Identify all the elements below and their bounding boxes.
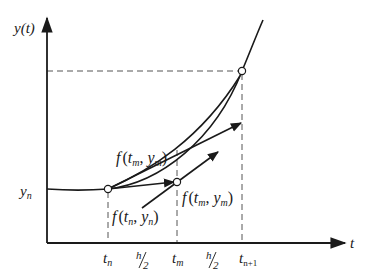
slope-lines [108,76,241,208]
svg-text:h: h [136,249,142,261]
annotation-slope-initial: f(tn, yn) [112,208,159,227]
y-tick-yn: yn [18,183,32,201]
point-tn1-yn1 [238,67,245,74]
x-axis-label: t [350,235,355,251]
arrow-initial-slope [108,182,174,189]
x-tick-tn: tn [103,250,112,268]
x-tick-tn1: tn+1 [239,250,257,268]
svg-text:2: 2 [143,259,149,271]
y-axis-label: y(t) [12,20,35,37]
x-tick-tm: tm [172,250,183,268]
annotation-slope-upper: f(tm, ym) [116,149,167,168]
svg-text:2: 2 [213,259,219,271]
point-tm-ym [173,178,180,185]
point-tn-yn [104,185,111,192]
svg-text:h: h [206,249,212,261]
x-tick-half-step-2: h 2 [206,249,219,271]
annotation-slope-mid: f(tm, ym) [182,189,233,208]
midpoint-method-diagram: y(t) t yn tn h 2 tm h 2 tn+1 f(tm, ym) f… [0,0,370,279]
x-tick-half-step-1: h 2 [136,249,149,271]
points [104,67,245,192]
